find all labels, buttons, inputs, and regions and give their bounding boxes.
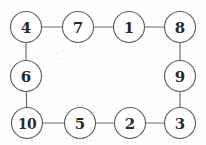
graph-node-label-3: 3 bbox=[175, 115, 185, 133]
graph-node-label-9: 9 bbox=[175, 68, 185, 86]
graph-node-6[interactable]: 6 bbox=[11, 61, 42, 92]
graph-node-10[interactable]: 10 bbox=[12, 108, 43, 139]
graph-node-2[interactable]: 2 bbox=[115, 108, 146, 139]
graph-node-3[interactable]: 3 bbox=[165, 108, 196, 139]
graph-node-label-7: 7 bbox=[73, 19, 83, 37]
graph-figure: 47189325106 bbox=[0, 0, 206, 145]
graph-node-label-8: 8 bbox=[175, 19, 185, 37]
graph-node-label-2: 2 bbox=[125, 115, 135, 133]
graph-canvas: 47189325106 bbox=[0, 0, 206, 145]
nodes-layer: 47189325106 bbox=[11, 12, 196, 139]
graph-node-4[interactable]: 4 bbox=[11, 12, 42, 43]
graph-node-label-1: 1 bbox=[124, 19, 134, 37]
graph-node-label-6: 6 bbox=[21, 68, 31, 86]
graph-node-5[interactable]: 5 bbox=[65, 108, 96, 139]
graph-node-8[interactable]: 8 bbox=[165, 12, 196, 43]
graph-node-label-5: 5 bbox=[75, 115, 85, 133]
edges-layer bbox=[26, 27, 180, 123]
graph-node-label-10: 10 bbox=[18, 116, 37, 132]
graph-node-1[interactable]: 1 bbox=[114, 12, 145, 43]
graph-node-7[interactable]: 7 bbox=[63, 12, 94, 43]
graph-node-label-4: 4 bbox=[21, 19, 31, 37]
graph-node-9[interactable]: 9 bbox=[165, 61, 196, 92]
